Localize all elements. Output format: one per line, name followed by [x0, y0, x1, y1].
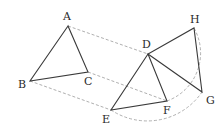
- label-a: A: [62, 10, 72, 23]
- geometry-diagram: A B C D E F G H: [0, 0, 223, 129]
- label-b: B: [18, 78, 26, 91]
- label-e: E: [102, 113, 110, 126]
- dashed-arc-e-g: [111, 92, 202, 121]
- label-d: D: [142, 38, 151, 51]
- label-f: F: [163, 104, 171, 117]
- label-h: H: [190, 13, 200, 26]
- triangle-def: [111, 54, 167, 110]
- label-c: C: [84, 75, 92, 88]
- triangle-abc: [30, 26, 88, 81]
- dashed-line-b-e: [30, 81, 111, 110]
- dashed-line-a-d: [68, 26, 148, 54]
- triangle-dgh: [148, 28, 202, 92]
- dashed-line-c-f: [88, 72, 167, 101]
- label-g: G: [206, 94, 215, 107]
